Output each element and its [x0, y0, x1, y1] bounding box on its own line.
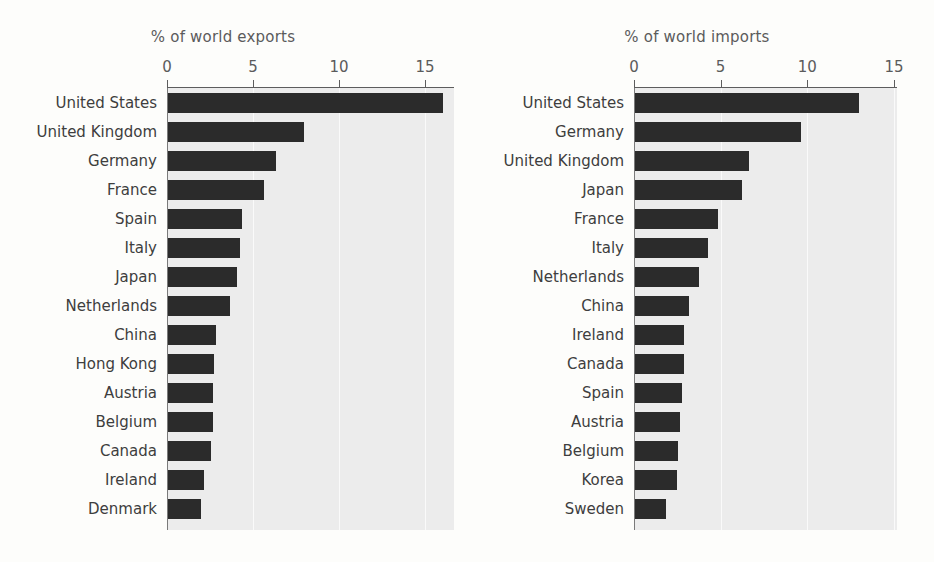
exports-xtick-label-1: 5 [248, 58, 258, 76]
imports-category-label-12: Belgium [374, 441, 624, 461]
imports-category-label-3: Japan [374, 180, 624, 200]
exports-category-label-1: United Kingdom [0, 122, 157, 142]
imports-xtick-mark-0 [634, 80, 635, 87]
imports-xtick-mark-3 [894, 80, 895, 87]
imports-x-axis-tick-labels: 051015 [460, 58, 934, 78]
imports-category-label-14: Sweden [374, 499, 624, 519]
exports-category-label-5: Italy [0, 238, 157, 258]
imports-category-label-13: Korea [374, 470, 624, 490]
imports-category-label-9: Canada [374, 354, 624, 374]
imports-category-label-6: Netherlands [374, 267, 624, 287]
exports-category-label-3: France [0, 180, 157, 200]
exports-x-axis-tick-labels: 051015 [0, 58, 460, 78]
imports-xtick-label-2: 10 [798, 58, 817, 76]
imports-category-label-10: Spain [374, 383, 624, 403]
imports-category-label-4: France [374, 209, 624, 229]
imports-category-label-8: Ireland [374, 325, 624, 345]
exports-category-label-14: Denmark [0, 499, 157, 519]
imports-category-label-column: United StatesGermanyUnited KingdomJapanF… [460, 88, 934, 530]
two-panel-bar-chart-figure: % of world exports 051015 United StatesU… [0, 0, 934, 562]
exports-category-label-11: Belgium [0, 412, 157, 432]
exports-category-label-6: Japan [0, 267, 157, 287]
exports-xtick-label-3: 15 [415, 58, 434, 76]
imports-xtick-label-3: 15 [884, 58, 903, 76]
exports-category-label-4: Spain [0, 209, 157, 229]
imports-xtick-mark-1 [721, 80, 722, 87]
exports-xtick-mark-1 [253, 80, 254, 87]
exports-category-label-13: Ireland [0, 470, 157, 490]
exports-xtick-label-0: 0 [162, 58, 172, 76]
exports-xtick-mark-3 [425, 80, 426, 87]
imports-xtick-label-0: 0 [629, 58, 639, 76]
imports-category-label-0: United States [374, 93, 624, 113]
exports-category-label-7: Netherlands [0, 296, 157, 316]
exports-category-label-12: Canada [0, 441, 157, 461]
exports-xtick-mark-0 [167, 80, 168, 87]
imports-category-label-7: China [374, 296, 624, 316]
imports-xtick-mark-2 [807, 80, 808, 87]
imports-category-label-11: Austria [374, 412, 624, 432]
imports-category-label-5: Italy [374, 238, 624, 258]
imports-category-label-1: Germany [374, 122, 624, 142]
exports-category-label-0: United States [0, 93, 157, 113]
exports-category-label-10: Austria [0, 383, 157, 403]
imports-chart-panel: % of world imports 051015 United StatesG… [460, 0, 934, 562]
exports-category-label-8: China [0, 325, 157, 345]
exports-xtick-mark-2 [339, 80, 340, 87]
exports-xtick-label-2: 10 [329, 58, 348, 76]
exports-chart-title: % of world exports [0, 28, 446, 46]
exports-category-label-9: Hong Kong [0, 354, 157, 374]
imports-category-label-2: United Kingdom [374, 151, 624, 171]
exports-category-label-2: Germany [0, 151, 157, 171]
imports-xtick-label-1: 5 [716, 58, 726, 76]
imports-chart-title: % of world imports [460, 28, 934, 46]
